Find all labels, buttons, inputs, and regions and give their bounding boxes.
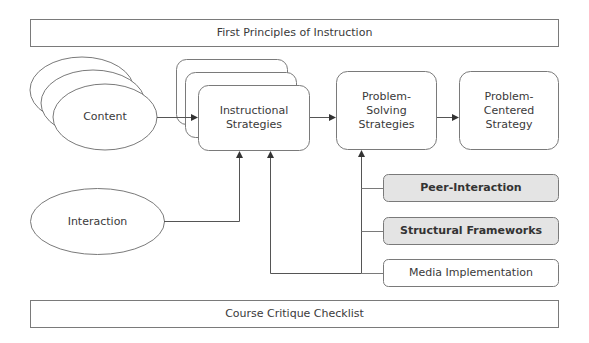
header-label: First Principles of Instruction xyxy=(30,19,559,47)
interaction-label: Interaction xyxy=(30,188,165,255)
instructional-strategies-label: Instructional Strategies xyxy=(198,85,310,151)
footer-label: Course Critique Checklist xyxy=(30,300,559,328)
peer-interaction-label: Peer-Interaction xyxy=(383,174,559,202)
diagram-canvas xyxy=(0,0,589,343)
problem-centered-label: Problem- Centered Strategy xyxy=(459,71,559,150)
problem-solving-label: Problem- Solving Strategies xyxy=(336,71,437,150)
interaction-to-instructional-arrow xyxy=(164,152,240,222)
structural-frameworks-label: Structural Frameworks xyxy=(383,217,559,245)
media-implementation-label: Media Implementation xyxy=(383,259,559,287)
media-to-instructional-arrow xyxy=(271,152,362,274)
content-label: Content xyxy=(53,84,157,150)
